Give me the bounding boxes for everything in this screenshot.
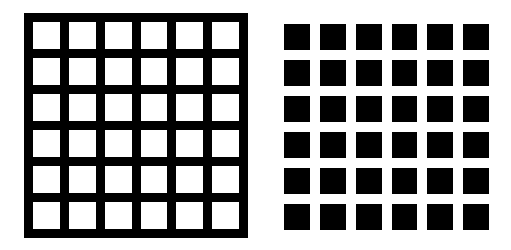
- white-square: [69, 202, 96, 229]
- white-square: [105, 94, 132, 121]
- white-square: [33, 202, 60, 229]
- white-square: [33, 166, 60, 193]
- black-square: [463, 204, 489, 230]
- black-square: [356, 132, 382, 158]
- white-square: [212, 22, 239, 49]
- white-square: [69, 166, 96, 193]
- white-square: [176, 22, 203, 49]
- black-square: [392, 168, 418, 194]
- black-square: [392, 24, 418, 50]
- white-square: [105, 130, 132, 157]
- black-square: [463, 168, 489, 194]
- white-square: [105, 58, 132, 85]
- black-square: [320, 60, 346, 86]
- black-square: [320, 168, 346, 194]
- white-square: [69, 58, 96, 85]
- black-square: [463, 24, 489, 50]
- black-square: [427, 132, 453, 158]
- white-square: [212, 58, 239, 85]
- black-square: [392, 132, 418, 158]
- white-square: [33, 130, 60, 157]
- black-square: [392, 96, 418, 122]
- black-square: [392, 60, 418, 86]
- white-square: [141, 130, 168, 157]
- black-square: [320, 204, 346, 230]
- white-square: [176, 166, 203, 193]
- black-square: [320, 132, 346, 158]
- white-square: [212, 94, 239, 121]
- black-square: [427, 204, 453, 230]
- white-square: [212, 166, 239, 193]
- black-square: [320, 96, 346, 122]
- white-square: [69, 22, 96, 49]
- white-squares-on-black-grid: [24, 13, 248, 238]
- black-square: [356, 204, 382, 230]
- white-square: [105, 22, 132, 49]
- black-square: [284, 96, 310, 122]
- white-square: [141, 166, 168, 193]
- black-squares-on-white-grid: [284, 24, 489, 230]
- black-square: [463, 96, 489, 122]
- white-square: [212, 202, 239, 229]
- black-square: [427, 96, 453, 122]
- black-square: [284, 204, 310, 230]
- white-square: [69, 94, 96, 121]
- white-square: [105, 166, 132, 193]
- white-square: [176, 94, 203, 121]
- white-square: [141, 94, 168, 121]
- black-square: [356, 24, 382, 50]
- black-square: [284, 60, 310, 86]
- black-square: [284, 132, 310, 158]
- black-square: [356, 96, 382, 122]
- white-square: [176, 58, 203, 85]
- black-square: [320, 24, 346, 50]
- black-square: [284, 24, 310, 50]
- black-square: [463, 132, 489, 158]
- white-square: [176, 202, 203, 229]
- black-square: [284, 168, 310, 194]
- white-square: [176, 130, 203, 157]
- black-square: [356, 60, 382, 86]
- white-square: [105, 202, 132, 229]
- white-square: [141, 202, 168, 229]
- black-square: [463, 60, 489, 86]
- black-square: [427, 168, 453, 194]
- black-square: [356, 168, 382, 194]
- black-square: [392, 204, 418, 230]
- black-square: [427, 60, 453, 86]
- white-square: [212, 130, 239, 157]
- white-square: [69, 130, 96, 157]
- black-square: [427, 24, 453, 50]
- white-square: [141, 22, 168, 49]
- white-square: [33, 94, 60, 121]
- white-square: [33, 58, 60, 85]
- white-square: [33, 22, 60, 49]
- white-square: [141, 58, 168, 85]
